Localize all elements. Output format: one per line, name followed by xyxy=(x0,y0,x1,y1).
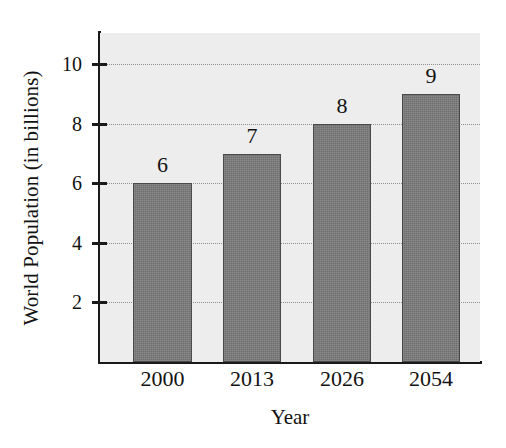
y-axis-title: World Population (in billions) xyxy=(14,28,48,368)
y-tick-label-4: 4 xyxy=(36,233,82,253)
y-tick-label-8: 8 xyxy=(36,114,82,134)
y-tick-label-10: 10 xyxy=(36,54,82,74)
bar-value-label-2026: 8 xyxy=(313,95,371,117)
x-axis-title: Year xyxy=(100,405,480,430)
bar-value-label-2054: 9 xyxy=(402,65,460,87)
y-tick-10 xyxy=(92,63,107,66)
x-tick-label-2013: 2013 xyxy=(207,368,297,390)
bar-2000 xyxy=(133,183,192,362)
x-tick-label-2054: 2054 xyxy=(386,368,476,390)
y-tick-label-6: 6 xyxy=(36,173,82,193)
y-tick-6 xyxy=(92,182,107,185)
x-tick-label-2026: 2026 xyxy=(297,368,387,390)
y-tick-label-2: 2 xyxy=(36,292,82,312)
y-tick-8 xyxy=(92,123,107,126)
bar-2013 xyxy=(223,154,281,362)
y-tick-4 xyxy=(92,242,107,245)
bar-value-label-2013: 7 xyxy=(223,125,281,147)
y-tick-2 xyxy=(92,301,107,304)
x-tick-label-2000: 2000 xyxy=(117,368,208,390)
bar-chart-figure: World Population (in billions) 246810 67… xyxy=(0,0,506,448)
bar-2054 xyxy=(402,94,460,362)
bar-2026 xyxy=(313,124,371,362)
bar-value-label-2000: 6 xyxy=(133,154,192,176)
